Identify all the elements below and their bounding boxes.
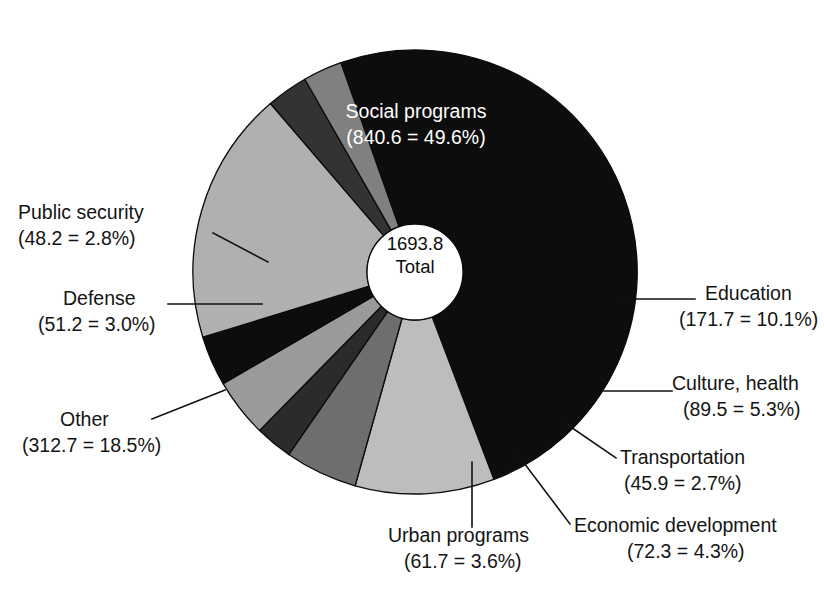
center-total-value: 1693.8 (387, 233, 444, 254)
pie-chart-figure: Social programs (840.6 = 49.6%)Education… (0, 0, 824, 600)
slice-label-public-security-name: Public security (18, 201, 144, 223)
slice-label-education-value: (171.7 = 10.1%) (679, 308, 818, 330)
slice-label-social-programs-name: Social programs (346, 100, 487, 122)
slice-label-other-name: Other (60, 408, 109, 430)
slice-label-urban-programs-name: Urban programs (388, 524, 529, 546)
pie-chart-canvas: Social programs (840.6 = 49.6%)Education… (0, 0, 824, 600)
slice-label-culture-health-name: Culture, health (672, 372, 799, 394)
slice-label-culture-health-value: (89.5 = 5.3%) (683, 398, 801, 420)
slice-label-transportation-value: (45.9 = 2.7%) (624, 472, 742, 494)
slice-label-education-name: Education (705, 282, 792, 304)
slice-label-defense-value: (51.2 = 3.0%) (38, 313, 156, 335)
slice-label-social-programs-value: (840.6 = 49.6%) (346, 126, 485, 148)
slice-label-economic-development-value: (72.3 = 4.3%) (627, 540, 745, 562)
slice-label-urban-programs-value: (61.7 = 3.6%) (404, 550, 522, 572)
slice-label-economic-development-name: Economic development (574, 514, 777, 536)
slice-label-public-security-value: (48.2 = 2.8%) (18, 227, 136, 249)
center-total-label: Total (395, 256, 434, 277)
slice-label-transportation-name: Transportation (620, 446, 745, 468)
slice-label-defense-name: Defense (63, 287, 136, 309)
slice-label-other-value: (312.7 = 18.5%) (22, 434, 161, 456)
